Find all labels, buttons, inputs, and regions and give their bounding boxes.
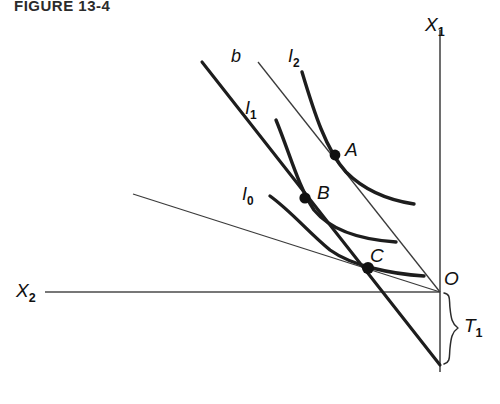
point-label-b: B	[317, 182, 330, 204]
curve-label-i2: I2	[288, 46, 300, 70]
point-label-c: C	[370, 245, 384, 267]
point-label-a: A	[345, 139, 358, 161]
budget-line-b	[202, 62, 440, 365]
point-marker-a	[330, 150, 341, 161]
line-label-b: b	[231, 46, 241, 67]
origin-label: O	[444, 268, 459, 290]
t1-brace	[444, 293, 458, 364]
t1-label: T1	[464, 315, 483, 340]
figure-root: FIGURE 13-4 X1 X2 O b I2 I1 I0 A B C	[0, 0, 500, 404]
curve-label-i1: I1	[245, 98, 257, 122]
x2-axis-label: X2	[16, 280, 36, 305]
indifference-curve-i0	[270, 196, 424, 276]
point-marker-b	[299, 192, 310, 203]
x1-axis-label: X1	[425, 14, 445, 39]
curve-label-i0: I0	[242, 184, 254, 208]
